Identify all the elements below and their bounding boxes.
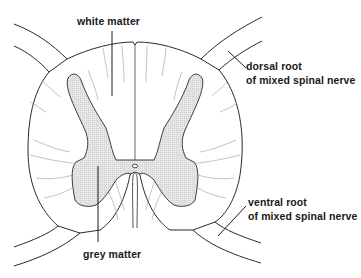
ventral-root-label-line2: of mixed spinal nerve (248, 210, 357, 223)
dorsal-root-label-line1: dorsal root (246, 60, 302, 73)
spinal-cord-diagram (0, 0, 361, 278)
white-matter-label: white matter (77, 15, 140, 28)
dorsal-root-leader (228, 51, 246, 68)
ventral-root-label-line1: ventral root (248, 196, 307, 209)
grey-matter-label: grey matter (83, 248, 141, 261)
ventral-root-left (14, 226, 80, 266)
ventral-root-right (193, 222, 261, 263)
dorsal-root-label-line2: of mixed spinal nerve (246, 74, 355, 87)
central-canal (132, 164, 137, 168)
ventral-median-fissure (133, 173, 138, 228)
